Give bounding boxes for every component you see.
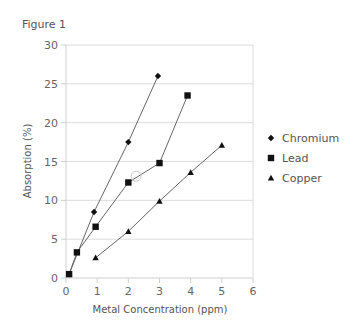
legend-label: Chromium xyxy=(282,132,339,145)
x-tick-label: 4 xyxy=(187,285,194,298)
x-tick-label: 1 xyxy=(94,285,101,298)
y-tick-label: 5 xyxy=(51,233,58,246)
square-marker-icon xyxy=(268,155,274,161)
legend-item-lead: Lead xyxy=(268,152,309,165)
diamond-marker-icon xyxy=(155,73,161,79)
triangle-marker-icon xyxy=(219,142,225,148)
x-tick-label: 2 xyxy=(125,285,132,298)
diamond-marker-icon xyxy=(125,139,131,145)
legend: ChromiumLeadCopper xyxy=(268,132,339,185)
x-tick-label: 5 xyxy=(218,285,225,298)
diamond-marker-icon xyxy=(91,209,97,215)
scatter-line-chart: 051015202530 0123456 Metal Concentration… xyxy=(0,0,356,336)
y-tick-label: 25 xyxy=(44,78,58,91)
y-tick-label: 15 xyxy=(44,156,58,169)
square-marker-icon xyxy=(66,271,72,277)
square-marker-icon xyxy=(125,179,131,185)
y-tick-label: 30 xyxy=(44,39,58,52)
y-tick-label: 0 xyxy=(51,272,58,285)
square-marker-icon xyxy=(92,224,98,230)
x-axis-label: Metal Concentration (ppm) xyxy=(93,304,228,315)
triangle-marker-icon xyxy=(268,175,274,181)
series-lead xyxy=(66,92,191,277)
legend-item-chromium: Chromium xyxy=(268,132,339,145)
x-tick-label: 0 xyxy=(63,285,70,298)
y-tick-label: 20 xyxy=(44,117,58,130)
diamond-marker-icon xyxy=(268,135,274,141)
data-series xyxy=(66,73,225,277)
series-copper xyxy=(92,142,225,260)
y-axis-label: Absorption (%) xyxy=(22,124,33,199)
legend-label: Copper xyxy=(282,172,322,185)
x-tick-label: 3 xyxy=(156,285,163,298)
square-marker-icon xyxy=(74,249,80,255)
x-axis-ticks: 0123456 xyxy=(63,278,257,298)
open-circle-icon xyxy=(131,171,141,181)
series-chromium xyxy=(66,73,161,277)
annotations xyxy=(131,171,141,181)
y-tick-label: 10 xyxy=(44,194,58,207)
x-tick-label: 6 xyxy=(250,285,257,298)
y-axis-ticks: 051015202530 xyxy=(44,39,66,285)
legend-label: Lead xyxy=(282,152,308,165)
square-marker-icon xyxy=(156,160,162,166)
square-marker-icon xyxy=(184,92,190,98)
legend-item-copper: Copper xyxy=(268,172,322,185)
